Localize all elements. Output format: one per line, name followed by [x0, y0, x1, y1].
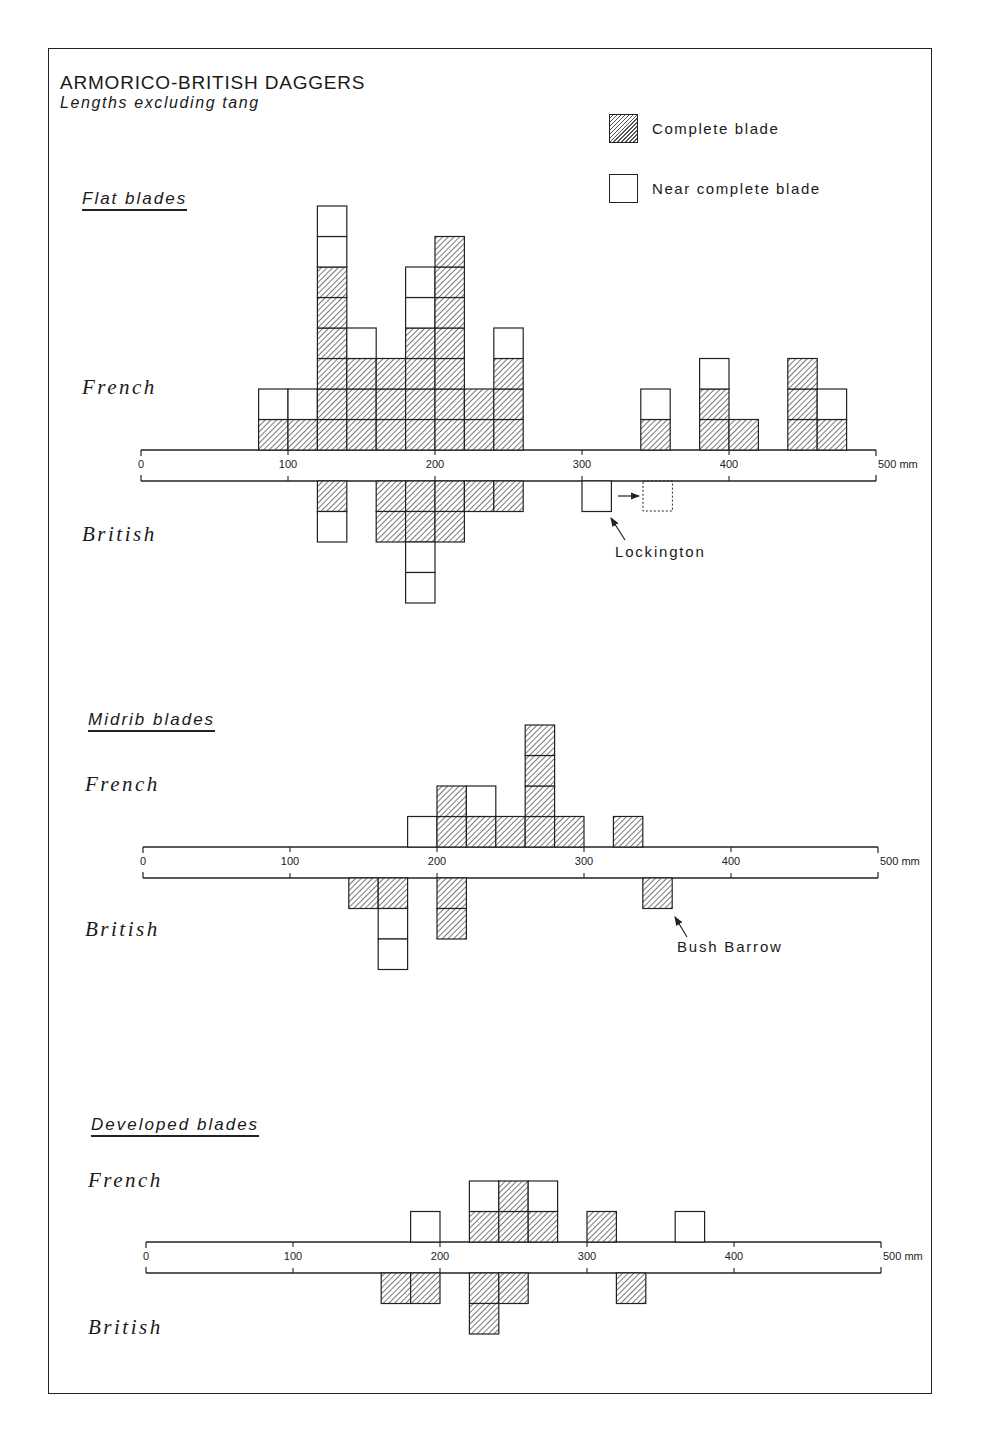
complete-blade-cell [469, 1212, 498, 1243]
complete-blade-cell [437, 786, 466, 817]
complete-blade-cell [788, 359, 817, 390]
complete-blade-cell [435, 420, 464, 451]
complete-blade-cell [435, 389, 464, 420]
near-complete-blade-cell [288, 389, 317, 420]
complete-blade-cell [499, 1273, 528, 1304]
complete-blade-cell [378, 878, 407, 909]
complete-blade-cell [729, 420, 758, 451]
complete-blade-cell [525, 756, 554, 787]
complete-blade-cell [317, 298, 346, 329]
complete-blade-cell [406, 328, 435, 359]
tick-label: 0 [140, 855, 146, 867]
complete-blade-cell [525, 817, 554, 848]
complete-blade-cell [494, 481, 523, 512]
tick-label: 400 [725, 1250, 743, 1262]
complete-blade-cell [464, 481, 493, 512]
complete-blade-cell [435, 481, 464, 512]
near-complete-blade-cell [378, 909, 407, 940]
complete-blade-cell [259, 420, 288, 451]
complete-blade-cell [349, 878, 378, 909]
complete-blade-cell [406, 512, 435, 543]
complete-blade-cell [643, 878, 672, 909]
complete-blade-cell [700, 389, 729, 420]
complete-blade-cell [525, 725, 554, 756]
complete-blade-cell [347, 420, 376, 451]
near-complete-blade-cell [347, 328, 376, 359]
near-complete-blade-cell [641, 389, 670, 420]
complete-blade-cell [317, 359, 346, 390]
near-complete-blade-cell [259, 389, 288, 420]
cropped-caption [0, 1426, 983, 1440]
near-complete-blade-cell [466, 786, 495, 817]
complete-blade-cell [528, 1212, 557, 1243]
near-complete-blade-cell [317, 512, 346, 543]
near-complete-blade-cell [582, 481, 611, 512]
tick-label: 100 [284, 1250, 302, 1262]
tick-label: 300 [573, 458, 591, 470]
tick-label: 300 [578, 1250, 596, 1262]
tick-label: 400 [720, 458, 738, 470]
complete-blade-cell [641, 420, 670, 451]
complete-blade-cell [469, 1304, 498, 1335]
complete-blade-cell [406, 359, 435, 390]
complete-blade-cell [435, 237, 464, 268]
tick-label: 100 [279, 458, 297, 470]
complete-blade-cell [555, 817, 584, 848]
near-complete-blade-cell [317, 237, 346, 268]
complete-blade-cell [376, 359, 405, 390]
complete-blade-cell [435, 267, 464, 298]
complete-blade-cell [464, 420, 493, 451]
complete-blade-cell [464, 389, 493, 420]
arrow-bush-barrow-icon [675, 917, 687, 937]
complete-blade-cell [466, 817, 495, 848]
axes-group: 0100200300400500 mm0100200300400500 mm01… [138, 450, 923, 1273]
complete-blade-cell [788, 420, 817, 451]
complete-blade-cell [499, 1212, 528, 1243]
tick-label: 0 [138, 458, 144, 470]
complete-blade-cell [381, 1273, 410, 1304]
tick-label: 200 [431, 1250, 449, 1262]
complete-blade-cell [494, 389, 523, 420]
tick-label: 100 [281, 855, 299, 867]
complete-blade-cell [494, 359, 523, 390]
complete-blade-cell [435, 328, 464, 359]
complete-blade-cell [406, 420, 435, 451]
complete-blade-cell [525, 786, 554, 817]
complete-blade-cell [469, 1273, 498, 1304]
arrow-lockington-icon [611, 518, 625, 540]
complete-blade-cell [700, 420, 729, 451]
complete-blade-cell [435, 298, 464, 329]
axis-1: 0100200300400500 mm [140, 847, 920, 878]
near-complete-blade-cell [406, 298, 435, 329]
near-complete-blade-cell [406, 542, 435, 573]
complete-blade-cell [613, 817, 642, 848]
axis-2: 0100200300400500 mm [143, 1242, 923, 1273]
tick-label: 200 [426, 458, 444, 470]
complete-blade-cell [616, 1273, 645, 1304]
lockington-reconstructed-box [643, 481, 672, 511]
axis-0: 0100200300400500 mm [138, 450, 918, 481]
tick-label: 300 [575, 855, 593, 867]
near-complete-blade-cell [411, 1212, 440, 1243]
tick-label: 500 mm [878, 458, 918, 470]
annotation-arrows [611, 481, 687, 937]
near-complete-blade-cell [378, 939, 407, 970]
complete-blade-cell [437, 878, 466, 909]
complete-blade-cell [376, 512, 405, 543]
complete-blade-cell [376, 420, 405, 451]
tick-label: 0 [143, 1250, 149, 1262]
near-complete-blade-cell [469, 1181, 498, 1212]
bars-group [259, 206, 847, 1334]
complete-blade-cell [788, 389, 817, 420]
complete-blade-cell [317, 420, 346, 451]
complete-blade-cell [411, 1273, 440, 1304]
complete-blade-cell [817, 420, 846, 451]
tick-label: 500 mm [883, 1250, 923, 1262]
near-complete-blade-cell [700, 359, 729, 390]
complete-blade-cell [376, 389, 405, 420]
complete-blade-cell [317, 481, 346, 512]
complete-blade-cell [406, 389, 435, 420]
complete-blade-cell [406, 481, 435, 512]
near-complete-blade-cell [408, 817, 437, 848]
complete-blade-cell [435, 359, 464, 390]
